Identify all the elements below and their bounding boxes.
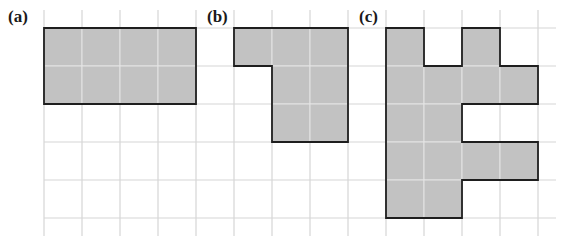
shape-b-cell <box>234 28 272 66</box>
shape-c-cell <box>462 142 500 180</box>
shape-c-cell <box>424 180 462 218</box>
shape-c-cell <box>500 66 538 104</box>
shape-b-cell <box>310 28 348 66</box>
shape-b-cell <box>310 104 348 142</box>
shape-c-cell <box>462 28 500 66</box>
grid-diagram: (a) (b) (c) <box>0 0 569 251</box>
shape-a-cell <box>44 66 82 104</box>
shape-c-cell <box>462 66 500 104</box>
shape-a-cell <box>44 28 82 66</box>
shape-b-cell <box>310 66 348 104</box>
shape-a-cell <box>120 66 158 104</box>
shape-c-cell <box>424 66 462 104</box>
shape-c-cell <box>386 66 424 104</box>
shape-a-cell <box>158 28 196 66</box>
panel-label-b: (b) <box>207 8 228 25</box>
shape-c-cell <box>386 104 424 142</box>
shape-a-cell <box>158 66 196 104</box>
shape-c-cell <box>386 28 424 66</box>
shape-c-cell <box>500 142 538 180</box>
shape-c-cell <box>424 142 462 180</box>
shape-b-cell <box>272 28 310 66</box>
panel-label-c: (c) <box>359 8 378 25</box>
grid-svg <box>0 0 569 251</box>
shape-a-cell <box>82 66 120 104</box>
panel-label-a: (a) <box>8 8 28 25</box>
shape-a-cell <box>120 28 158 66</box>
shape-b-cell <box>272 104 310 142</box>
shape-c-cell <box>386 142 424 180</box>
shape-b-cell <box>272 66 310 104</box>
shape-c-cell <box>386 180 424 218</box>
shape-a-cell <box>82 28 120 66</box>
shape-c-cell <box>424 104 462 142</box>
